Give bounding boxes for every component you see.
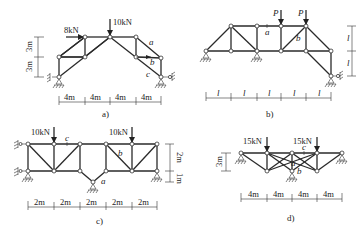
member-label-b: b bbox=[150, 57, 155, 67]
panel-b: P P a b l l l l l l l bbox=[200, 8, 356, 119]
svg-text:P: P bbox=[297, 8, 304, 18]
load-8kn: 8kN bbox=[64, 25, 83, 37]
svg-text:l: l bbox=[347, 58, 350, 68]
svg-text:l: l bbox=[217, 88, 220, 98]
caption-b: b) bbox=[266, 109, 274, 119]
svg-text:2m: 2m bbox=[60, 197, 71, 207]
pin-support-left-bottom bbox=[14, 167, 33, 182]
svg-text:4m: 4m bbox=[273, 189, 284, 199]
svg-text:8kN: 8kN bbox=[64, 25, 79, 35]
member-label-a: a bbox=[149, 37, 154, 47]
svg-text:2m: 2m bbox=[175, 152, 185, 163]
svg-text:l: l bbox=[347, 33, 350, 43]
svg-text:P: P bbox=[272, 8, 279, 18]
pin-support-1 bbox=[200, 53, 211, 62]
member-label-b: b bbox=[297, 166, 302, 176]
load-p-1: P bbox=[272, 8, 281, 24]
svg-text:4m: 4m bbox=[141, 92, 152, 102]
vertical-dimensions: l l bbox=[347, 26, 356, 76]
vertical-dimensions: 2m 1m bbox=[165, 144, 185, 184]
svg-text:4m: 4m bbox=[90, 92, 101, 102]
horizontal-dimensions: 2m 2m 2m 2m 2m bbox=[28, 197, 157, 210]
member-label-c: c bbox=[146, 69, 150, 79]
svg-text:4m: 4m bbox=[115, 92, 126, 102]
svg-text:10kN: 10kN bbox=[113, 17, 132, 27]
member-label-a: a bbox=[291, 158, 296, 168]
svg-text:15kN: 15kN bbox=[243, 136, 262, 146]
svg-text:3m: 3m bbox=[214, 156, 224, 167]
svg-text:l: l bbox=[243, 88, 246, 98]
member-label-c: c bbox=[302, 142, 306, 152]
load-15kn-left: 15kN bbox=[243, 136, 267, 151]
load-10kn-right: 10kN bbox=[109, 127, 132, 142]
horizontal-dimensions: 4m 4m 4m 4m bbox=[241, 189, 342, 202]
svg-text:4m: 4m bbox=[323, 189, 334, 199]
caption-d: d) bbox=[287, 213, 295, 223]
svg-text:2m: 2m bbox=[86, 197, 97, 207]
svg-text:4m: 4m bbox=[248, 189, 259, 199]
panel-d: 15kN 15kN c a b 3m 4m 4m 4m 4m d) bbox=[214, 136, 347, 223]
panel-c: 10kN 10kN c b a 2m 1m 2m 2m 2m bbox=[14, 127, 185, 226]
svg-text:4m: 4m bbox=[298, 189, 309, 199]
horizontal-dimensions: 4m 4m 4m 4m bbox=[59, 92, 161, 105]
load-p-2: P bbox=[297, 8, 306, 24]
svg-text:10kN: 10kN bbox=[109, 127, 128, 137]
pin-support-center bbox=[286, 173, 297, 182]
svg-text:4m: 4m bbox=[64, 92, 75, 102]
svg-text:3m: 3m bbox=[24, 41, 34, 52]
vertical-dimensions: 3m bbox=[214, 153, 231, 171]
vertical-dimensions: 3m 3m bbox=[24, 37, 44, 77]
pin-support-center bbox=[87, 184, 98, 193]
svg-text:2m: 2m bbox=[34, 197, 45, 207]
member-label-a: a bbox=[101, 176, 106, 186]
truss-figure: 8kN 10kN a b c 3m 3m 4m 4m bbox=[0, 0, 362, 236]
truss-members bbox=[28, 144, 157, 182]
member-label-a: a bbox=[265, 27, 270, 37]
roller-support-left-top bbox=[14, 140, 26, 149]
pin-support-2 bbox=[251, 53, 262, 62]
pin-support-left bbox=[235, 155, 246, 164]
svg-text:l: l bbox=[318, 88, 321, 98]
svg-text:l: l bbox=[268, 88, 271, 98]
caption-a: a) bbox=[102, 109, 109, 119]
panel-a: 8kN 10kN a b c 3m 3m 4m 4m bbox=[24, 17, 175, 119]
svg-text:2m: 2m bbox=[138, 197, 149, 207]
svg-text:2m: 2m bbox=[112, 197, 123, 207]
svg-text:1m: 1m bbox=[175, 173, 185, 184]
svg-text:3m: 3m bbox=[24, 61, 34, 72]
caption-c: c) bbox=[96, 216, 103, 226]
load-10kn-left: 10kN bbox=[31, 127, 54, 142]
member-label-c: c bbox=[65, 133, 69, 143]
pin-support-right bbox=[151, 173, 162, 182]
svg-text:l: l bbox=[293, 88, 296, 98]
member-label-b: b bbox=[118, 148, 123, 158]
member-label-b: b bbox=[296, 33, 301, 43]
horizontal-dimensions: l l l l l bbox=[206, 88, 331, 101]
load-10kn: 10kN bbox=[110, 17, 132, 35]
svg-text:10kN: 10kN bbox=[31, 127, 50, 137]
